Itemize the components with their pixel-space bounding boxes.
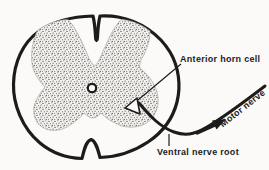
spinal-cord-figure: [0, 0, 269, 170]
spinal-cord-diagram: Anterior horn cell Motor nerve Ventral n…: [0, 0, 269, 170]
central-canal: [88, 84, 96, 92]
anterior-horn-cell-label: Anterior horn cell: [180, 55, 260, 64]
ventral-nerve-root-label: Ventral nerve root: [157, 148, 239, 157]
